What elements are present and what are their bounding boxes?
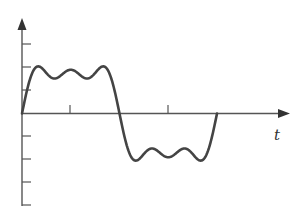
y-axis-arrow-icon	[18, 18, 27, 30]
x-axis-label: t	[274, 126, 281, 144]
square-wave-fourier-chart: t	[0, 0, 300, 219]
y-ticks	[22, 44, 31, 205]
x-axis-arrow-icon	[278, 109, 290, 118]
